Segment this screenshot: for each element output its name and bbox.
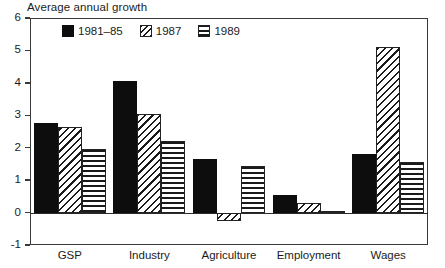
y-axis-tick-label: 4 [15, 75, 21, 90]
y-axis-tick-label: 0 [15, 205, 21, 220]
bar-agriculture-1987 [217, 213, 241, 221]
bar-wages-1989 [400, 162, 424, 212]
y-axis-tick-label: 1 [15, 172, 21, 187]
y-axis-tick-label: 5 [15, 42, 21, 57]
solid-black-swatch [62, 25, 74, 37]
bar-wages-1981-85 [352, 154, 376, 212]
bar-industry-1981-85 [113, 81, 137, 212]
legend-entry: 1987 [140, 25, 182, 37]
y-axis: -10123456 [0, 0, 30, 268]
plot-area [30, 18, 428, 245]
horizontal-lines-swatch [198, 25, 210, 37]
bar-employment-1981-85 [273, 195, 297, 213]
y-axis-tick-label: -1 [11, 237, 21, 252]
bar-wages-1987 [376, 47, 400, 212]
legend-entry: 1981–85 [62, 25, 123, 37]
bar-employment-1987 [297, 203, 321, 213]
y-axis-tick-label: 2 [15, 140, 21, 155]
diagonal-hatch-swatch [140, 25, 152, 37]
bar-gsp-1989 [82, 149, 106, 212]
x-axis-label-employment: Employment [277, 249, 341, 261]
legend-label: 1989 [214, 25, 240, 37]
legend-label: 1987 [156, 25, 182, 37]
bar-employment-1989 [321, 211, 345, 213]
x-axis-label-wages: Wages [371, 249, 406, 261]
chart-title: Average annual growth [27, 1, 147, 13]
x-axis-label-agriculture: Agriculture [202, 249, 257, 261]
bar-industry-1987 [137, 114, 161, 213]
legend-label: 1981–85 [78, 25, 123, 37]
x-axis-labels: GSPIndustryAgricultureEmploymentWages [30, 249, 428, 268]
bar-agriculture-1981-85 [193, 159, 217, 213]
x-axis-label-industry: Industry [129, 249, 170, 261]
x-axis-label-gsp: GSP [58, 249, 82, 261]
y-axis-tick-label: 6 [15, 10, 21, 25]
bar-gsp-1981-85 [34, 123, 58, 212]
chart-figure: Average annual growth -10123456 1981–851… [0, 0, 445, 268]
legend-entry: 1989 [198, 25, 240, 37]
bar-agriculture-1989 [241, 166, 265, 213]
bar-industry-1989 [161, 141, 185, 212]
chart-legend: 1981–8519871989 [62, 25, 240, 37]
y-axis-tick-label: 3 [15, 107, 21, 122]
bar-gsp-1987 [58, 127, 82, 213]
